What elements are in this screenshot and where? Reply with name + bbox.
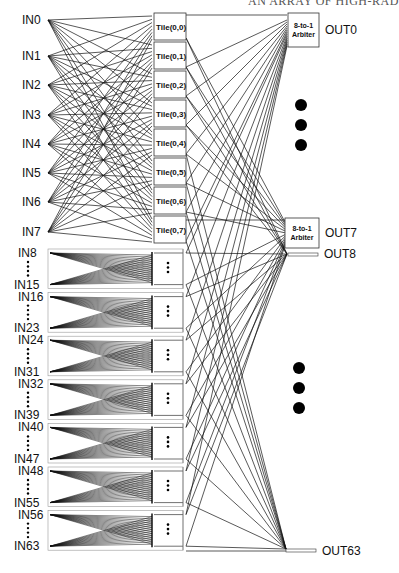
vertical-ellipsis-icon	[27, 304, 29, 306]
output-label-out8: OUT8	[324, 247, 356, 261]
out8-stub	[288, 253, 318, 256]
tile-label: Tile(0,7)	[156, 226, 186, 235]
input-group-first-label: IN16	[18, 290, 44, 304]
input-group-last-label: IN63	[14, 539, 40, 553]
input-group-first-label: IN8	[18, 246, 37, 260]
ellipsis-dot-icon	[167, 441, 170, 444]
vertical-ellipsis-icon	[27, 522, 29, 524]
ellipsis-dot-icon	[167, 436, 170, 439]
vertical-ellipsis-icon	[27, 261, 29, 263]
vertical-ellipsis-icon	[27, 435, 29, 437]
tile-label: Tile(0,3)	[156, 110, 186, 119]
vertical-ellipsis-icon	[27, 401, 29, 403]
vertical-ellipsis-icon	[293, 382, 305, 394]
input-label-in6: IN6	[22, 195, 41, 209]
vertical-ellipsis-icon	[27, 492, 29, 494]
ellipsis-dot-icon	[167, 480, 170, 483]
ellipsis-dot-icon	[167, 358, 170, 361]
arbiter-label-line2: Arbiter	[292, 31, 315, 38]
vertical-ellipsis-icon	[27, 531, 29, 533]
vertical-ellipsis-icon	[27, 357, 29, 359]
input-group-first-label: IN40	[18, 420, 44, 434]
output-label-out0: OUT0	[325, 23, 357, 37]
vertical-ellipsis-icon	[27, 479, 29, 481]
vertical-ellipsis-icon	[293, 362, 305, 374]
input-group-first-label: IN56	[18, 508, 44, 522]
vertical-ellipsis-icon	[293, 402, 305, 414]
ellipsis-dot-icon	[167, 393, 170, 396]
input-group-first-label: IN32	[18, 377, 44, 391]
ellipsis-dot-icon	[167, 262, 170, 265]
vertical-ellipsis-icon	[27, 536, 29, 538]
vertical-ellipsis-icon	[295, 119, 307, 131]
ellipsis-dot-icon	[167, 314, 170, 317]
vertical-ellipsis-icon	[27, 309, 29, 311]
tile-label: Tile(0,5)	[156, 168, 186, 177]
vertical-ellipsis-icon	[27, 527, 29, 529]
vertical-ellipsis-icon	[27, 274, 29, 276]
vertical-ellipsis-icon	[295, 139, 307, 151]
vertical-ellipsis-icon	[27, 396, 29, 398]
input-label-in5: IN5	[22, 166, 41, 180]
ellipsis-dot-icon	[167, 523, 170, 526]
vertical-ellipsis-icon	[27, 440, 29, 442]
ellipsis-dot-icon	[167, 445, 170, 448]
vertical-ellipsis-icon	[27, 392, 29, 394]
input-label-in1: IN1	[22, 49, 41, 63]
input-label-in4: IN4	[22, 137, 41, 151]
vertical-ellipsis-icon	[295, 99, 307, 111]
vertical-ellipsis-icon	[27, 362, 29, 364]
vertical-ellipsis-icon	[27, 353, 29, 355]
ellipsis-dot-icon	[167, 271, 170, 274]
vertical-ellipsis-icon	[27, 488, 29, 490]
tile-label: Tile(0,2)	[156, 81, 186, 90]
input-group-first-label: IN48	[18, 464, 44, 478]
vertical-ellipsis-icon	[27, 405, 29, 407]
vertical-ellipsis-icon	[27, 270, 29, 272]
arbiter-box	[285, 218, 319, 248]
ellipsis-dot-icon	[167, 310, 170, 313]
vertical-ellipsis-icon	[27, 318, 29, 320]
tile-label: Tile(0,6)	[156, 197, 186, 206]
vertical-ellipsis-icon	[27, 449, 29, 451]
ellipsis-dot-icon	[167, 397, 170, 400]
input-label-in3: IN3	[22, 108, 41, 122]
input-group-first-label: IN24	[18, 333, 44, 347]
input-label-in2: IN2	[22, 78, 41, 92]
vertical-ellipsis-icon	[27, 444, 29, 446]
ellipsis-dot-icon	[167, 266, 170, 269]
ellipsis-dot-icon	[167, 484, 170, 487]
output-label-out7: OUT7	[325, 226, 357, 240]
vertical-ellipsis-icon	[27, 265, 29, 267]
input-label-in0: IN0	[22, 13, 41, 27]
arbiter-label-line1: 8-to-1	[292, 225, 311, 232]
input-label-in7: IN7	[22, 225, 41, 239]
vertical-ellipsis-icon	[27, 313, 29, 315]
ellipsis-dot-icon	[167, 305, 170, 308]
vertical-ellipsis-icon	[27, 348, 29, 350]
tile-label: Tile(0,4)	[156, 139, 186, 148]
boxes	[48, 13, 319, 552]
ellipsis-dot-icon	[167, 349, 170, 352]
ellipsis-dot-icon	[167, 532, 170, 535]
ellipsis-dot-icon	[167, 528, 170, 531]
vertical-ellipsis-icon	[27, 483, 29, 485]
tile-label: Tile(0,0)	[156, 23, 186, 32]
arbiter-label-line1: 8-to-1	[294, 22, 313, 29]
ellipsis-dot-icon	[167, 489, 170, 492]
output-label-out63: OUT63	[322, 544, 361, 558]
tile-label: Tile(0,1)	[156, 52, 186, 61]
out63-stub	[286, 549, 316, 552]
arbiter-label-line2: Arbiter	[291, 234, 314, 241]
ellipsis-dot-icon	[167, 353, 170, 356]
arbiter-box	[288, 13, 319, 47]
ellipsis-dot-icon	[167, 402, 170, 405]
